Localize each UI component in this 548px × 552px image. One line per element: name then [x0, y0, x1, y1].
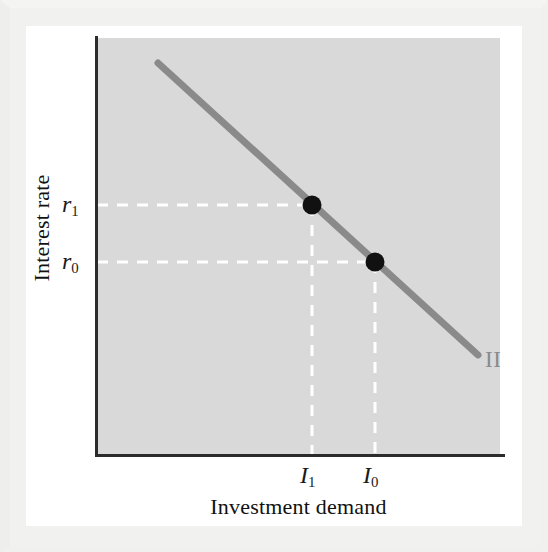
- plot-graphics: [97, 38, 500, 455]
- y-tick-r0-subscript: 0: [71, 260, 78, 276]
- y-tick-r1-subscript: 1: [71, 203, 78, 219]
- plot-area: [97, 38, 500, 455]
- x-tick-I0-base: I: [363, 462, 371, 488]
- y-axis-title: Interest rate: [29, 148, 55, 308]
- y-tick-r0-base: r: [62, 248, 71, 274]
- y-axis-line: [95, 36, 98, 457]
- data-point-r1-I1: [303, 196, 322, 215]
- x-axis-tick-label-I0: I0: [363, 463, 378, 490]
- x-tick-I1-subscript: 1: [308, 474, 315, 490]
- figure-canvas: r1 r0 I1 I0 II Interest rate Investment …: [0, 0, 548, 552]
- y-axis-tick-label-r1: r1: [62, 192, 79, 219]
- curve-label-II: II: [485, 348, 501, 371]
- x-axis-line: [95, 454, 505, 457]
- x-axis-title: Investment demand: [97, 494, 500, 520]
- y-tick-r1-base: r: [62, 191, 71, 217]
- x-tick-I1-base: I: [300, 462, 308, 488]
- y-axis-tick-label-r0: r0: [62, 249, 79, 276]
- data-point-r0-I0: [366, 253, 385, 272]
- x-tick-I0-subscript: 0: [371, 474, 378, 490]
- x-axis-tick-label-I1: I1: [300, 463, 315, 490]
